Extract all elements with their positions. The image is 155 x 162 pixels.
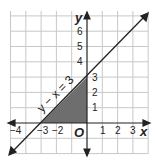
x-axis-label: x [139, 124, 148, 139]
x-tick-label: −3 [37, 125, 49, 136]
y-tick-label: 6 [77, 26, 83, 37]
coordinate-plane: y x O −4 −3 −2 1 2 3 1 2 3 4 5 6 y − x =… [0, 0, 155, 162]
y-tick-label: 3 [92, 72, 98, 83]
y-tick-label: 4 [77, 56, 83, 67]
y-axis-label: y [74, 10, 83, 25]
y-tick-label: 5 [77, 41, 83, 52]
x-tick-label: −2 [52, 125, 64, 136]
y-tick-label: 1 [92, 102, 98, 113]
x-tick-label: 1 [100, 125, 106, 136]
x-tick-label: 2 [115, 125, 121, 136]
y-tick-label: 2 [92, 87, 98, 98]
origin-label: O [74, 125, 84, 140]
x-tick-label: 3 [130, 125, 136, 136]
x-tick-label: −4 [10, 125, 22, 136]
